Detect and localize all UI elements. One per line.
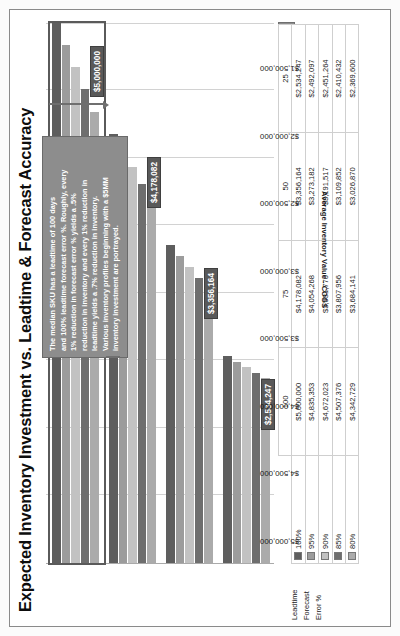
- cell-100-25: $2,534,247: [292, 25, 305, 133]
- table-col-header-50: 50: [279, 132, 292, 240]
- cell-85-75: $3,807,956: [332, 240, 345, 348]
- bar-75-85[interactable]: [138, 184, 147, 563]
- legend-swatch-icon: [334, 552, 342, 560]
- cell-100-50: $3,356,164: [292, 132, 305, 240]
- y-tick-3000000: $3,000,000: [260, 267, 360, 276]
- bar-25-95[interactable]: [233, 362, 242, 563]
- table-row-header-forecast: Forecast: [302, 591, 311, 620]
- annotation-line: and 100% leadtime forecast error %. Roug…: [59, 143, 70, 351]
- bar-50-85[interactable]: [195, 278, 204, 563]
- annotation-line: Various inventory profiles beginning wit…: [101, 143, 112, 351]
- cell-85-25: $2,410,432: [332, 25, 345, 133]
- bar-50-100[interactable]: [166, 245, 175, 563]
- rotated-chart-wrapper: Expected Inventory Investment vs. Leadti…: [10, 10, 390, 626]
- bar-label-100: $5,000,000: [90, 46, 104, 97]
- table-row[interactable]: 85% $4,507,376 $3,807,956 $3,109,852 $2,…: [332, 25, 345, 564]
- data-table: 100 75 50 25 100% $5,000,000 $4,178,082 …: [278, 24, 359, 564]
- cell-90-25: $2,451,264: [319, 25, 332, 133]
- y-tick-1500000: $1,500,000: [260, 65, 360, 74]
- legend-swatch-icon: [294, 552, 302, 560]
- table-header-row: 100 75 50 25: [279, 25, 292, 564]
- legend-swatch-icon: [348, 552, 356, 560]
- table-col-header-75: 75: [279, 240, 292, 348]
- table-row[interactable]: 80% $4,342,729 $3,684,141 $3,026,870 $2,…: [345, 25, 358, 564]
- cell-95-25: $2,492,097: [305, 25, 318, 133]
- y-tick-5000000: $5,000,000: [260, 537, 360, 546]
- annotation-line: The median SKU has a leadtime of 100 day…: [48, 143, 59, 351]
- y-tick-4500000: $4,500,000: [260, 470, 360, 479]
- table-col-header-25: 25: [279, 25, 292, 133]
- bar-50-95[interactable]: [176, 256, 185, 563]
- screenshot-page: Expected Inventory Investment vs. Leadti…: [0, 0, 400, 636]
- bar-50-80[interactable]: [204, 289, 213, 563]
- cell-100-75: $4,178,082: [292, 240, 305, 348]
- cell-95-75: $4,054,268: [305, 240, 318, 348]
- bar-label-75: $4,178,082: [147, 157, 161, 208]
- bar-75-80[interactable]: [147, 201, 156, 563]
- chart-frame: Expected Inventory Investment vs. Leadti…: [9, 9, 391, 627]
- y-tick-4000000: $4,000,000: [260, 402, 360, 411]
- chart-canvas: Expected Inventory Investment vs. Leadti…: [10, 10, 390, 626]
- cell-85-50: $3,109,852: [332, 132, 345, 240]
- annotation-line: leadtime yields a .7% reduction in inven…: [90, 143, 101, 351]
- bar-25-100[interactable]: [223, 356, 232, 563]
- y-tick-3500000: $3,500,000: [260, 335, 360, 344]
- bar-75-90[interactable]: [128, 167, 137, 563]
- y-tick-2500000: $2,500,000: [260, 200, 360, 209]
- table-row[interactable]: 95% $4,835,353 $4,054,268 $3,273,182 $2,…: [305, 25, 318, 564]
- callout-arrow-head: [103, 101, 109, 109]
- chart-title: Expected Inventory Investment vs. Leadti…: [16, 22, 35, 612]
- cell-95-50: $3,273,182: [305, 132, 318, 240]
- cell-80-25: $2,369,600: [345, 25, 358, 133]
- cell-80-50: $3,026,870: [345, 132, 358, 240]
- annotation-callout: The median SKU has a leadtime of 100 day…: [42, 136, 128, 358]
- table-row[interactable]: 100% $5,000,000 $4,178,082 $3,356,164 $2…: [292, 25, 305, 564]
- bar-label-50: $3,356,164: [204, 268, 218, 319]
- legend-swatch-icon: [307, 552, 315, 560]
- cell-80-75: $3,684,141: [345, 240, 358, 348]
- annotation-line: reduction in inventory and every 1% redu…: [80, 143, 91, 351]
- table-row-header-leadtime: Leadtime: [290, 590, 299, 620]
- annotation-line: inventory investment are portrayed.: [111, 143, 122, 351]
- legend-swatch-icon: [321, 552, 329, 560]
- y-tick-2000000: $2,000,000: [260, 132, 360, 141]
- bar-group-25: [223, 24, 275, 563]
- annotation-line: 1% reduction in forecast error % yields …: [69, 143, 80, 351]
- callout-leader-v: [49, 103, 105, 105]
- callout-leader-stub: [106, 357, 120, 359]
- table-row-header-error: Error %: [314, 595, 323, 620]
- bar-50-90[interactable]: [185, 267, 194, 563]
- y-axis-title: Average Inventory Value - COGS: [320, 191, 329, 308]
- bar-25-90[interactable]: [242, 367, 251, 563]
